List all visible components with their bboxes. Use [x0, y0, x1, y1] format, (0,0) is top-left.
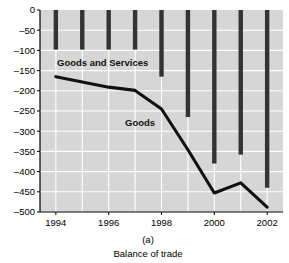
bar-2002: [265, 10, 269, 188]
x-tick-label-2000: 2000: [204, 217, 225, 228]
bar-1997: [133, 10, 137, 50]
bar-1998: [159, 10, 163, 77]
series-label-goods-and-services: Goods and Services: [57, 57, 148, 68]
bar-1995: [80, 10, 84, 50]
bar-2000: [212, 10, 216, 164]
bar-1999: [186, 10, 190, 117]
y-tick-label--200: –200: [14, 85, 35, 96]
y-tick-label--100: –100: [14, 45, 35, 56]
panel-label: (a): [142, 234, 154, 245]
balance-of-trade-figure: 0–50–100–150–200–250–300–350–400–450–500…: [0, 0, 289, 263]
bar-1996: [106, 10, 110, 50]
x-tick-label-1998: 1998: [151, 217, 172, 228]
y-tick-label-0: 0: [30, 4, 35, 15]
series-label-goods: Goods: [125, 117, 155, 128]
figure-caption: Balance of trade: [113, 248, 182, 259]
y-tick-label--150: –150: [14, 65, 35, 76]
y-tick-label--450: –450: [14, 186, 35, 197]
y-tick-label--400: –400: [14, 166, 35, 177]
x-tick-label-2002: 2002: [257, 217, 278, 228]
x-tick-label-1994: 1994: [45, 217, 66, 228]
bar-2001: [239, 10, 243, 155]
y-tick-label--50: –50: [19, 25, 35, 36]
y-tick-label--350: –350: [14, 146, 35, 157]
balance-of-trade-chart: 0–50–100–150–200–250–300–350–400–450–500…: [0, 0, 289, 263]
x-tick-label-1996: 1996: [98, 217, 119, 228]
y-tick-label--300: –300: [14, 126, 35, 137]
bar-1994: [54, 10, 58, 50]
y-tick-label--250: –250: [14, 105, 35, 116]
y-tick-label--500: –500: [14, 206, 35, 217]
